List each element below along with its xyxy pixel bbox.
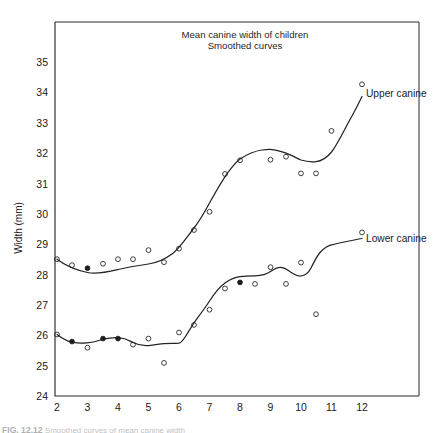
upper-canine-label: Upper canine (366, 88, 427, 99)
data-point (207, 307, 212, 312)
data-point (253, 282, 258, 287)
y-tick-31: 31 (36, 178, 48, 190)
data-point (177, 330, 182, 335)
data-point (314, 312, 319, 317)
data-point (131, 257, 136, 262)
data-point (360, 82, 365, 87)
chart-title-line1: Mean canine width of children (182, 29, 309, 40)
data-point (299, 260, 304, 265)
data-point (116, 257, 121, 262)
upper-canine-points (55, 82, 365, 271)
series-upper-canine: Upper canine (55, 82, 427, 273)
x-axis-ticks: 2 3 4 5 6 7 8 9 10 11 12 (54, 401, 368, 413)
y-tick-33: 33 (36, 117, 48, 129)
data-point (70, 339, 75, 344)
data-point (268, 265, 273, 270)
figure-caption-number: FIG. 12.12 (2, 425, 43, 433)
plot-frame (55, 22, 419, 396)
y-tick-28: 28 (36, 269, 48, 281)
lower-canine-points (55, 230, 365, 365)
data-point (284, 282, 289, 287)
x-tick-6: 6 (176, 401, 182, 413)
data-point (146, 336, 151, 341)
chart-title: Mean canine width of children Smoothed c… (182, 29, 309, 51)
figure-container: 24 25 26 27 28 29 30 31 32 33 34 35 2 3 … (0, 0, 444, 433)
data-point (162, 361, 167, 366)
y-axis-title: Width (mm) (13, 202, 24, 254)
x-tick-12: 12 (356, 401, 368, 413)
y-tick-32: 32 (36, 147, 48, 159)
data-point (162, 260, 167, 265)
data-point (223, 286, 228, 291)
y-tick-34: 34 (36, 86, 48, 98)
data-point (70, 263, 75, 268)
data-point (207, 209, 212, 214)
x-tick-5: 5 (146, 401, 152, 413)
data-point (299, 171, 304, 176)
y-tick-30: 30 (36, 208, 48, 220)
figure-caption-text: Smoothed curves of mean canine width (45, 426, 185, 433)
x-tick-4: 4 (115, 401, 121, 413)
x-tick-11: 11 (326, 401, 337, 413)
data-point (284, 154, 289, 159)
lower-canine-label: Lower canine (366, 233, 427, 244)
x-tick-2: 2 (54, 401, 60, 413)
y-tick-35: 35 (36, 56, 48, 68)
data-point (101, 336, 106, 341)
y-tick-24: 24 (36, 390, 48, 402)
chart-title-line2: Smoothed curves (208, 40, 283, 51)
data-point (146, 248, 151, 253)
y-tick-27: 27 (36, 299, 48, 311)
data-point (85, 345, 90, 350)
upper-canine-curve (57, 97, 362, 274)
data-point (360, 230, 365, 235)
data-point (329, 129, 334, 134)
x-tick-8: 8 (237, 401, 243, 413)
x-tick-7: 7 (207, 401, 213, 413)
data-point (101, 261, 106, 266)
x-tick-10: 10 (295, 401, 307, 413)
series-lower-canine: Lower canine (55, 230, 427, 365)
data-point (238, 280, 243, 285)
lower-canine-curve (57, 239, 362, 346)
canine-width-chart: 24 25 26 27 28 29 30 31 32 33 34 35 2 3 … (0, 0, 444, 433)
data-point (268, 157, 273, 162)
y-axis-ticks: 24 25 26 27 28 29 30 31 32 33 34 35 (36, 56, 48, 402)
y-tick-25: 25 (36, 360, 48, 372)
data-point (85, 266, 90, 271)
data-point (116, 336, 121, 341)
figure-caption: FIG. 12.12 Smoothed curves of mean canin… (2, 425, 185, 433)
x-tick-3: 3 (85, 401, 91, 413)
y-tick-26: 26 (36, 329, 48, 341)
x-tick-9: 9 (268, 401, 274, 413)
y-tick-29: 29 (36, 238, 48, 250)
data-point (314, 171, 319, 176)
